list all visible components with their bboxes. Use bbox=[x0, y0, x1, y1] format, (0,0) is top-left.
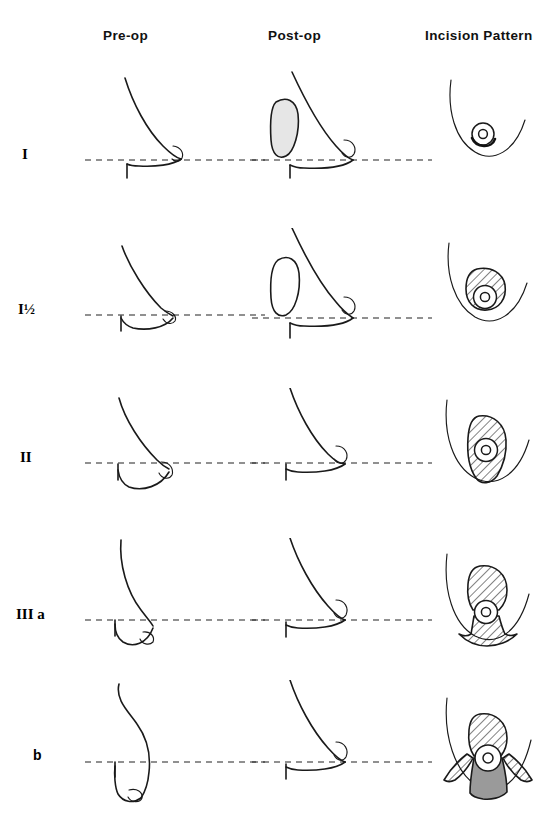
nipple-circle bbox=[483, 753, 493, 763]
nipple-circle bbox=[480, 292, 489, 301]
breast-lower-contour bbox=[286, 620, 345, 628]
breast-upper-contour bbox=[122, 246, 173, 316]
nipple-areola-profile bbox=[342, 140, 355, 157]
row-label-grade-2: II bbox=[20, 449, 32, 466]
breast-upper-contour bbox=[118, 684, 149, 798]
breast-upper-contour bbox=[290, 680, 345, 762]
preop-profile-grade-2 bbox=[85, 388, 265, 506]
incision-pattern-grade-3a bbox=[435, 546, 545, 668]
hatched-lateral-wing-right bbox=[503, 754, 532, 782]
postop-profile-grade-3a bbox=[252, 538, 432, 668]
nipple-circle bbox=[481, 607, 490, 616]
column-header-incision-pattern: Incision Pattern bbox=[425, 28, 533, 43]
row-label-grade-1-half: I½ bbox=[18, 301, 35, 318]
breast-lower-contour bbox=[115, 624, 153, 645]
preop-profile-grade-3a bbox=[85, 538, 265, 668]
row-label-grade-3b: b bbox=[33, 747, 42, 763]
preop-profile-grade-3b bbox=[85, 680, 265, 820]
postop-profile-grade-3b bbox=[252, 680, 432, 820]
breast-lower-contour bbox=[286, 762, 345, 770]
incision-pattern-grade-1-half bbox=[435, 233, 545, 348]
breast-lower-contour bbox=[286, 464, 345, 472]
breast-upper-contour bbox=[292, 228, 353, 318]
nipple-areola-profile bbox=[334, 446, 347, 463]
column-header-postop: Post-op bbox=[268, 28, 321, 43]
nipple-areola-profile bbox=[172, 146, 183, 161]
row-label-grade-1: I bbox=[22, 146, 28, 163]
breast-implant-shape bbox=[271, 99, 299, 157]
nipple-circle bbox=[479, 130, 488, 139]
breast-upper-contour bbox=[121, 540, 153, 626]
nipple-areola-profile bbox=[334, 600, 347, 618]
postop-profile-grade-2 bbox=[252, 388, 432, 506]
incision-pattern-grade-3b bbox=[433, 694, 547, 818]
nipple-areola-profile bbox=[334, 742, 347, 760]
nipple-circle bbox=[481, 445, 490, 454]
breast-upper-contour bbox=[119, 398, 169, 469]
nipple-areola-profile bbox=[342, 297, 355, 314]
breast-implant-shape bbox=[271, 258, 300, 316]
breast-lower-contour bbox=[290, 318, 353, 326]
breast-lower-contour bbox=[118, 470, 169, 489]
postop-profile-grade-1 bbox=[252, 70, 432, 190]
breast-upper-contour bbox=[290, 538, 345, 620]
incision-pattern-grade-2 bbox=[435, 390, 545, 508]
breast-lower-contour bbox=[121, 318, 173, 329]
ptosis-classification-figure: Pre-op Post-op Incision Pattern I I½ II … bbox=[0, 0, 556, 822]
column-header-preop: Pre-op bbox=[103, 28, 148, 43]
hatched-lateral-wing-left bbox=[444, 754, 473, 782]
preop-profile-grade-1-half bbox=[85, 232, 265, 347]
postop-profile-grade-1-half bbox=[252, 228, 432, 348]
breast-lower-contour bbox=[290, 160, 353, 168]
breast-upper-contour bbox=[292, 72, 353, 160]
nipple-areola-profile bbox=[128, 789, 142, 801]
incision-pattern-grade-1 bbox=[435, 72, 545, 187]
breast-upper-contour bbox=[290, 388, 345, 464]
preop-profile-grade-1 bbox=[85, 70, 265, 190]
breast-upper-contour bbox=[125, 78, 181, 159]
row-label-grade-3a: III a bbox=[16, 606, 45, 623]
breast-lower-contour bbox=[115, 766, 141, 801]
